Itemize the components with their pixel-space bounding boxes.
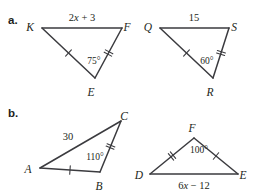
side-abc-BC [100,121,121,172]
angle-label-f: 100° [190,145,208,155]
vertex-label-qsr-Q: Q [144,21,153,33]
part-label-a: a. [8,14,18,26]
vertex-label-kfe-F: F [122,21,131,33]
side-qsr-SR [213,28,229,78]
angle-label-e: 75° [87,56,101,66]
vertex-label-def-F: F [187,122,196,134]
triangle-kfe: KFE2x + 375° [25,12,131,98]
tick-mark-abc-AB-1 [70,166,71,174]
side-label-ac: 30 [63,131,74,142]
side-label-de: 6x − 12 [178,180,210,191]
triangle-def: DEF6x − 12100° [134,122,247,191]
vertex-label-qsr-R: R [205,86,213,98]
part-b: b.ABC30110°DEF6x − 12100° [8,107,247,192]
vertex-label-def-D: D [134,169,144,181]
side-def-DF [150,138,194,174]
part-label-b: b. [8,107,18,119]
vertex-label-abc-C: C [120,110,128,122]
side-kfe-FE [95,28,122,78]
vertex-label-kfe-E: E [86,86,94,98]
side-label-kf: 2x + 3 [69,12,95,23]
part-a: a.KFE2x + 375°QSR1560° [8,12,237,98]
angle-label-b: 110° [86,152,104,162]
geometry-figure: a.KFE2x + 375°QSR1560°b.ABC30110°DEF6x −… [0,0,259,196]
side-label-qs: 15 [189,12,200,23]
figure-canvas: a.KFE2x + 375°QSR1560°b.ABC30110°DEF6x −… [0,0,259,196]
vertex-label-abc-B: B [95,180,102,192]
triangle-qsr: QSR1560° [144,12,237,98]
triangle-abc: ABC30110° [23,110,128,192]
vertex-label-kfe-K: K [25,21,35,33]
vertex-label-def-E: E [238,169,246,181]
angle-label-r: 60° [200,56,214,66]
vertex-label-qsr-S: S [231,21,237,33]
vertex-label-abc-A: A [23,163,32,175]
